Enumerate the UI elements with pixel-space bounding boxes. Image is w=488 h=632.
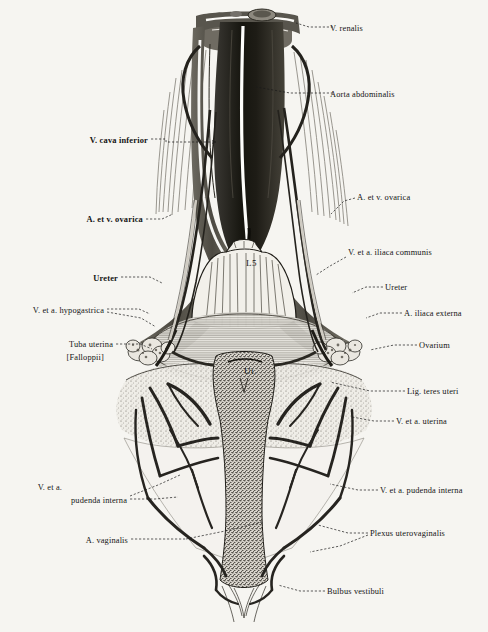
- label-ureter-right: Ureter: [385, 282, 407, 293]
- label-a-et-v-ovarica-right: A. et v. ovarica: [357, 192, 410, 203]
- label-a-vaginalis: A. vaginalis: [0, 535, 128, 546]
- label-ovarium: Ovarium: [419, 340, 450, 351]
- label-bulbus-vestibuli: Bulbus vestibuli: [327, 586, 384, 597]
- label-v-et-a-pudenda-interna-left-1: V. et a.: [0, 482, 62, 493]
- inline-label-vertebra-l5: L5: [246, 258, 257, 269]
- label-v-et-a-uterina: V. et a. uterina: [396, 416, 447, 427]
- label-tuba-uterina-1: Tuba uterina: [0, 339, 113, 350]
- label-a-et-v-ovarica-left: A. et v. ovarica: [0, 214, 143, 225]
- label-a-iliaca-externa: A. iliaca externa: [404, 308, 462, 319]
- label-tuba-uterina-2: [Falloppii]: [0, 352, 104, 363]
- inline-label-uterus: Ut.: [244, 366, 257, 377]
- label-aorta-abdominalis: Aorta abdominalis: [330, 89, 395, 100]
- label-v-renalis: V. renalis: [330, 23, 363, 34]
- label-lig-teres-uteri: Lig. teres uteri: [407, 386, 458, 397]
- label-ureter-left: Ureter: [0, 273, 118, 284]
- label-v-cava-inferior: V. cava inferior: [0, 135, 148, 146]
- label-plexus-uterovaginalis: Plexus uterovaginalis: [370, 528, 445, 539]
- label-v-et-a-pudenda-interna-right: V. et a. pudenda interna: [380, 485, 463, 496]
- label-v-et-a-hypogastrica: V. et a. hypogastrica: [0, 305, 104, 316]
- label-v-et-a-pudenda-interna-left-2: pudenda interna: [0, 495, 127, 506]
- label-v-et-a-iliaca-communis: V. et a. iliaca communis: [348, 247, 432, 258]
